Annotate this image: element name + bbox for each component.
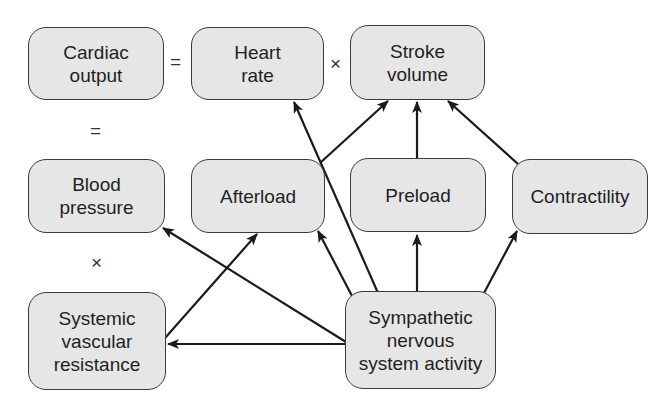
node-systemic-vascular-resistance: Systemic vascular resistance [28,292,166,390]
operator-equals-top: = [170,51,181,73]
node-contractility: Contractility [512,159,648,234]
arrow-sympathetic-to-contractility [484,231,517,293]
arrow-contractility-to-stroke-volume [448,101,518,164]
operator-times-left: × [91,252,102,274]
node-cardiac-output: Cardiac output [28,27,164,100]
node-preload: Preload [350,158,486,232]
node-sympathetic-nervous-system-activity: Sympathetic nervous system activity [345,291,496,389]
operator-times-top: × [330,53,341,75]
node-heart-rate: Heart rate [191,27,324,100]
arrow-svr-to-afterload [165,234,257,338]
arrow-sympathetic-to-afterload [318,231,352,296]
node-afterload: Afterload [191,159,325,233]
operator-equals-left: = [90,120,101,142]
arrow-afterload-to-stroke-volume [320,101,388,163]
node-stroke-volume: Stroke volume [350,25,485,100]
node-blood-pressure: Blood pressure [28,159,165,233]
arrow-sympathetic-to-blood-pressure [163,228,346,342]
